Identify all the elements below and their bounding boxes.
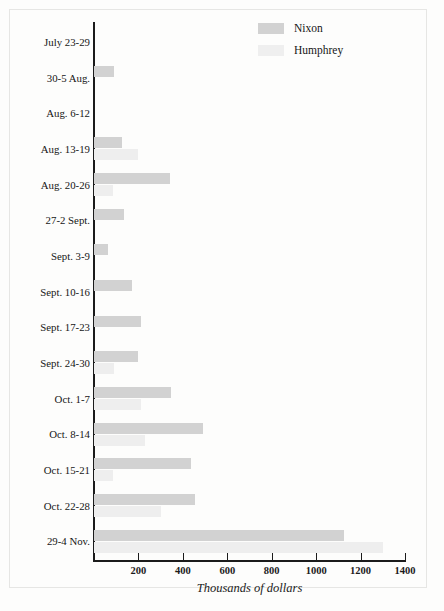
category-label: Aug. 13-19 <box>41 143 90 155</box>
legend-swatch-nixon <box>258 23 284 34</box>
category-label: Sept. 10-16 <box>40 286 90 298</box>
bar-humphrey <box>94 363 114 374</box>
category-label: Aug. 20-26 <box>41 179 90 191</box>
bar-nixon <box>94 351 138 362</box>
x-tick-1000 <box>316 553 317 561</box>
bar-nixon <box>94 209 124 220</box>
legend-label-humphrey: Humphrey <box>294 44 343 56</box>
x-axis-title: Thousands of dollars <box>93 581 406 596</box>
chart-figure: July 23-2930-5 Aug.Aug. 6-12Aug. 13-19Au… <box>0 0 444 611</box>
category-label: 30-5 Aug. <box>47 72 90 84</box>
bar-nixon <box>94 244 108 255</box>
category-label: Sept. 17-23 <box>40 321 90 333</box>
x-tick-1200 <box>361 553 362 561</box>
x-tick-label-200: 200 <box>131 565 147 576</box>
x-tick-400 <box>183 553 184 561</box>
bar-humphrey <box>94 399 141 410</box>
x-axis-line <box>93 560 406 562</box>
category-label: Sept. 24-30 <box>40 357 90 369</box>
bar-humphrey <box>94 542 383 553</box>
category-label: Oct. 8-14 <box>49 428 90 440</box>
bar-nixon <box>94 458 191 469</box>
x-tick-200 <box>138 553 139 561</box>
bar-humphrey <box>94 506 161 517</box>
bar-nixon <box>94 137 122 148</box>
bar-humphrey <box>94 470 113 481</box>
bar-nixon <box>94 530 344 541</box>
category-label: Oct. 1-7 <box>55 393 90 405</box>
category-label: 29-4 Nov. <box>47 535 90 547</box>
x-tick-0 <box>94 553 95 561</box>
bar-nixon <box>94 494 195 505</box>
bar-humphrey <box>94 435 145 446</box>
legend-item-nixon: Nixon <box>258 17 343 39</box>
bar-nixon <box>94 173 170 184</box>
x-tick-label-1400: 1400 <box>395 565 416 576</box>
bar-humphrey <box>94 149 138 160</box>
plot-area: July 23-2930-5 Aug.Aug. 6-12Aug. 13-19Au… <box>0 0 444 611</box>
x-tick-1400 <box>405 553 406 561</box>
category-label: Oct. 22-28 <box>44 500 90 512</box>
legend-label-nixon: Nixon <box>294 22 323 34</box>
category-label: Oct. 15-21 <box>44 464 90 476</box>
x-tick-label-1000: 1000 <box>306 565 327 576</box>
legend-swatch-humphrey <box>258 45 284 56</box>
bar-nixon <box>94 66 114 77</box>
x-tick-800 <box>272 553 273 561</box>
x-tick-600 <box>227 553 228 561</box>
bar-humphrey <box>94 185 113 196</box>
chart-legend: Nixon Humphrey <box>258 17 343 61</box>
category-label: 27-2 Sept. <box>46 214 90 226</box>
bar-nixon <box>94 387 171 398</box>
category-label: July 23-29 <box>44 36 90 48</box>
bar-nixon <box>94 280 132 291</box>
legend-item-humphrey: Humphrey <box>258 39 343 61</box>
bar-nixon <box>94 316 141 327</box>
x-tick-label-1200: 1200 <box>350 565 371 576</box>
category-label: Sept. 3-9 <box>51 250 90 262</box>
x-tick-label-400: 400 <box>175 565 191 576</box>
bar-nixon <box>94 423 203 434</box>
x-tick-label-800: 800 <box>264 565 280 576</box>
category-label: Aug. 6-12 <box>46 107 90 119</box>
x-tick-label-600: 600 <box>219 565 235 576</box>
